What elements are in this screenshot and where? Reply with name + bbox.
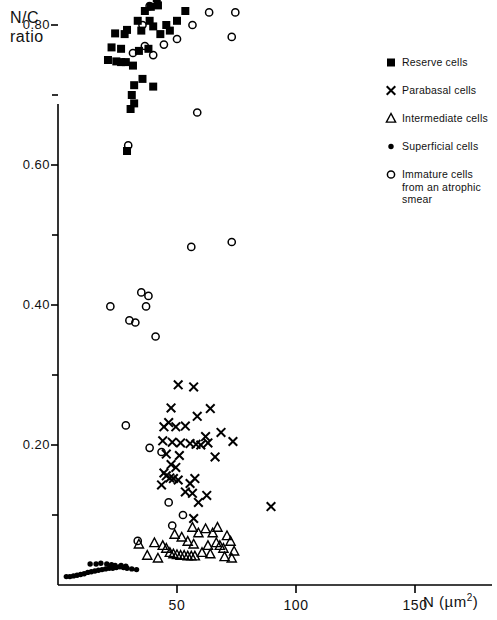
legend-item-intermediate-cells[interactable]: Intermediate cells bbox=[384, 112, 496, 126]
data-point bbox=[194, 109, 201, 116]
data-point bbox=[143, 551, 152, 560]
data-point bbox=[188, 489, 197, 498]
data-point bbox=[189, 383, 198, 392]
legend-item-superficial-cells[interactable]: Superficial cells bbox=[384, 140, 496, 154]
data-point bbox=[129, 566, 134, 571]
data-point bbox=[162, 450, 171, 459]
data-point bbox=[228, 238, 235, 245]
data-point bbox=[206, 404, 215, 413]
data-point bbox=[203, 541, 212, 550]
data-point bbox=[127, 105, 135, 113]
data-point bbox=[181, 7, 189, 15]
data-point bbox=[169, 522, 176, 529]
data-point bbox=[142, 303, 149, 310]
legend-item-label: Parabasal cells bbox=[402, 84, 496, 97]
data-point bbox=[194, 498, 203, 507]
data-point bbox=[118, 563, 123, 568]
data-point bbox=[130, 81, 138, 89]
data-point bbox=[206, 9, 213, 16]
data-point bbox=[211, 453, 220, 462]
data-point bbox=[176, 439, 185, 448]
data-point bbox=[181, 422, 190, 431]
data-point bbox=[168, 438, 177, 447]
data-point bbox=[387, 171, 394, 178]
data-point bbox=[157, 481, 166, 490]
data-point bbox=[170, 530, 179, 539]
data-point bbox=[174, 381, 183, 390]
series-intermediate-cells bbox=[134, 523, 238, 562]
x-axis-ticks bbox=[177, 585, 415, 593]
data-point bbox=[160, 41, 167, 48]
data-point bbox=[229, 437, 238, 446]
data-point bbox=[87, 561, 92, 566]
data-point bbox=[152, 333, 159, 340]
data-point bbox=[201, 524, 210, 533]
x-tick-label: 100 bbox=[276, 597, 316, 613]
data-point bbox=[173, 17, 181, 25]
data-point bbox=[111, 29, 119, 37]
data-point bbox=[226, 537, 235, 546]
y-axis-ticks bbox=[51, 0, 58, 515]
data-point bbox=[122, 422, 129, 429]
data-point bbox=[158, 437, 167, 446]
data-point bbox=[104, 561, 109, 566]
data-point bbox=[213, 523, 222, 532]
data-point bbox=[206, 549, 215, 558]
data-point bbox=[173, 35, 180, 42]
data-point bbox=[154, 1, 162, 9]
filled-dot-icon bbox=[384, 140, 398, 153]
data-point bbox=[149, 83, 157, 91]
data-point bbox=[191, 474, 200, 483]
data-point bbox=[228, 33, 235, 40]
data-point bbox=[202, 491, 211, 500]
data-point bbox=[167, 404, 176, 413]
data-point bbox=[232, 9, 239, 16]
data-point bbox=[98, 561, 103, 566]
data-point bbox=[388, 144, 393, 149]
data-point bbox=[128, 91, 136, 99]
series-superficial-cells bbox=[64, 561, 140, 580]
y-tick-label: 0.80 bbox=[6, 17, 50, 32]
y-tick-label: 0.40 bbox=[6, 297, 50, 312]
data-point bbox=[123, 563, 128, 568]
data-point bbox=[138, 289, 145, 296]
data-point bbox=[166, 27, 174, 35]
data-point bbox=[121, 30, 129, 38]
data-point bbox=[165, 499, 172, 506]
data-point bbox=[267, 502, 276, 511]
data-point bbox=[93, 561, 98, 566]
data-point bbox=[153, 553, 162, 562]
legend-item-label: Immature cells from an atrophic smear bbox=[402, 168, 496, 206]
data-point bbox=[217, 428, 226, 437]
data-point bbox=[150, 52, 157, 59]
data-point bbox=[188, 523, 197, 532]
data-point bbox=[386, 114, 395, 123]
data-point bbox=[175, 451, 184, 460]
y-tick-label: 0.60 bbox=[6, 157, 50, 172]
open-circle-icon bbox=[384, 168, 398, 181]
data-point bbox=[188, 243, 195, 250]
x-tick-label: 150 bbox=[395, 597, 435, 613]
legend-item-label: Superficial cells bbox=[402, 140, 496, 153]
data-point bbox=[179, 511, 186, 518]
data-point bbox=[112, 563, 117, 568]
series-parabasal-cells bbox=[157, 381, 275, 523]
legend-item-label: Reserve cells bbox=[402, 56, 496, 69]
data-point bbox=[138, 75, 146, 83]
legend-item-reserve-cells[interactable]: Reserve cells bbox=[384, 56, 496, 70]
filled-square-icon bbox=[384, 56, 398, 69]
data-point bbox=[104, 56, 112, 64]
data-point bbox=[129, 62, 137, 70]
legend-item-immature-cells-from-an-atrophic-smear[interactable]: Immature cells from an atrophic smear bbox=[384, 168, 496, 206]
y-tick-label: 0.20 bbox=[6, 437, 50, 452]
data-point bbox=[387, 59, 395, 67]
data-point bbox=[387, 86, 396, 95]
data-point bbox=[117, 45, 125, 53]
legend-item-parabasal-cells[interactable]: Parabasal cells bbox=[384, 84, 496, 98]
data-point bbox=[189, 21, 196, 28]
data-point bbox=[146, 444, 153, 451]
open-triangle-icon bbox=[384, 112, 398, 125]
data-point bbox=[145, 292, 152, 299]
data-point bbox=[189, 514, 198, 523]
data-point bbox=[150, 538, 159, 547]
